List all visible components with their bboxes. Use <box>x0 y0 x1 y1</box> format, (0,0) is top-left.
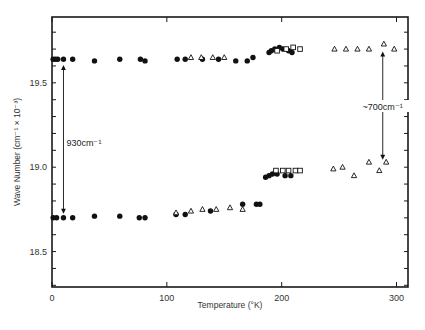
annotation-930-label: 930cm⁻¹ <box>66 138 101 148</box>
data-point-circle <box>117 213 122 218</box>
data-point-square <box>275 48 280 53</box>
axis-ticks <box>52 17 408 287</box>
data-point-circle <box>245 58 250 63</box>
y-tick-label: 18.5 <box>29 247 47 257</box>
data-point-triangle <box>173 210 178 215</box>
data-point-triangle <box>222 55 227 60</box>
data-point-square <box>298 168 303 173</box>
x-axis-title: Temperature (°K) <box>198 300 263 310</box>
arrow-down-icon <box>61 209 66 214</box>
data-point-triangle <box>381 41 386 46</box>
data-point-triangle <box>332 46 337 51</box>
data-point-circle <box>54 215 59 220</box>
data-point-triangle <box>355 46 360 51</box>
data-point-circle <box>137 215 142 220</box>
data-point-square <box>293 168 298 173</box>
annotations: 930cm⁻¹~700cm⁻¹ <box>61 51 415 213</box>
data-point-triangle <box>188 55 193 60</box>
arrow-up-icon <box>380 51 385 56</box>
data-point-circle <box>250 55 255 60</box>
data-point-square <box>284 47 289 52</box>
data-point-circle <box>117 56 122 61</box>
data-point-triangle <box>227 205 232 210</box>
data-point-triangle <box>331 166 336 171</box>
x-tick-label: 0 <box>49 293 54 303</box>
data-point-circle <box>92 213 97 218</box>
annotation-700-label: ~700cm⁻¹ <box>362 102 402 112</box>
data-point-circle <box>183 56 188 61</box>
data-point-triangle <box>366 46 371 51</box>
data-point-triangle <box>210 55 215 60</box>
data-point-triangle <box>343 46 348 51</box>
data-point-circle <box>174 56 179 61</box>
axis-tick-labels: 010020030018.519.019.5 <box>29 78 404 303</box>
data-point-square <box>298 47 303 52</box>
data-point-circle <box>92 58 97 63</box>
data-point-square <box>291 45 296 50</box>
arrow-up-icon <box>61 65 66 70</box>
data-point-triangle <box>240 207 245 212</box>
data-point-circle <box>61 56 66 61</box>
data-point-square <box>286 168 291 173</box>
data-point-square <box>274 168 279 173</box>
data-points <box>50 41 396 220</box>
y-tick-label: 19.5 <box>29 78 47 88</box>
data-point-circle <box>142 215 147 220</box>
data-point-triangle <box>200 207 205 212</box>
x-tick-label: 100 <box>159 293 174 303</box>
y-axis-title: Wave Number (cm⁻¹ × 10⁻³) <box>12 98 22 206</box>
data-point-circle <box>138 56 143 61</box>
data-point-circle <box>70 56 75 61</box>
data-point-triangle <box>366 159 371 164</box>
scatter-chart: 010020030018.519.019.5 930cm⁻¹~700cm⁻¹ T… <box>0 0 425 330</box>
data-point-circle <box>257 202 262 207</box>
data-point-triangle <box>188 208 193 213</box>
data-point-circle <box>282 173 287 178</box>
data-point-circle <box>289 50 294 55</box>
arrow-down-icon <box>380 155 385 160</box>
data-point-circle <box>61 215 66 220</box>
x-tick-label: 200 <box>274 293 289 303</box>
data-point-circle <box>70 215 75 220</box>
data-point-circle <box>183 212 188 217</box>
data-point-circle <box>142 58 147 63</box>
data-point-triangle <box>351 173 356 178</box>
plot-frame <box>52 17 408 287</box>
y-tick-label: 19.0 <box>29 162 47 172</box>
data-point-triangle <box>340 164 345 169</box>
data-point-circle <box>208 208 213 213</box>
data-point-square <box>281 168 286 173</box>
x-tick-label: 300 <box>389 293 404 303</box>
data-point-triangle <box>214 207 219 212</box>
data-point-circle <box>216 56 221 61</box>
data-point-triangle <box>392 46 397 51</box>
data-point-circle <box>288 173 293 178</box>
data-point-triangle <box>377 168 382 173</box>
data-point-triangle <box>384 159 389 164</box>
data-point-circle <box>55 56 60 61</box>
data-point-circle <box>233 58 238 63</box>
